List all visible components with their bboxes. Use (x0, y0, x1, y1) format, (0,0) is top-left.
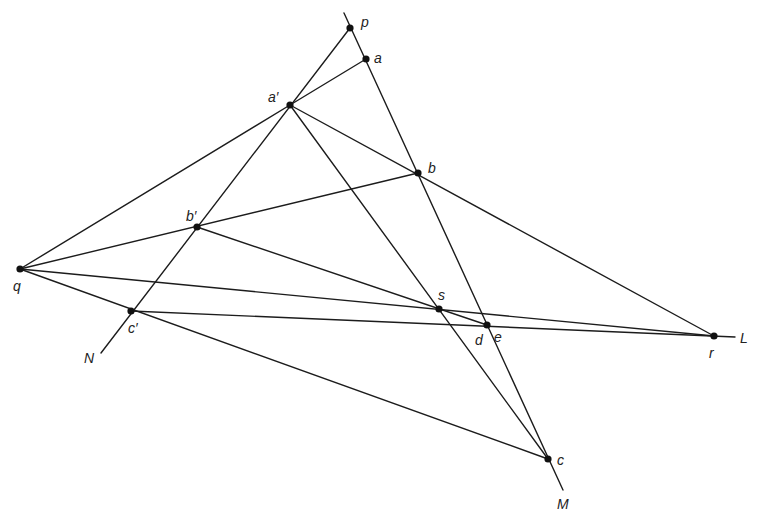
label-c: c (557, 452, 564, 468)
label-q: q (13, 278, 21, 294)
label-c-prime: c′ (128, 320, 139, 336)
label-b-prime: b′ (186, 208, 198, 224)
label-p: p (360, 14, 369, 30)
label-a: a (374, 50, 382, 66)
line-q-c (20, 269, 548, 459)
points-group (16, 24, 717, 462)
desargues-diagram: paa′bb′qc′sedrcLMN (0, 0, 758, 527)
point-c-prime (127, 307, 134, 314)
point-a (362, 55, 369, 62)
line-q-b (20, 173, 418, 269)
line-label-M: M (557, 496, 569, 512)
line-label-L: L (740, 330, 748, 346)
label-r: r (709, 345, 715, 361)
line-a-aprime (290, 59, 366, 105)
point-a-prime (286, 101, 293, 108)
labels-group: paa′bb′qc′sedrcLMN (13, 14, 748, 512)
line-N (101, 28, 350, 353)
point-r (710, 332, 717, 339)
lines-group (20, 13, 735, 490)
line-label-N: N (84, 350, 95, 366)
label-b: b (428, 160, 436, 176)
line-bprime-e (197, 227, 487, 325)
point-b-prime (193, 223, 200, 230)
label-e: e (494, 329, 502, 345)
point-b (414, 169, 421, 176)
point-q (16, 265, 23, 272)
label-s: s (438, 287, 445, 303)
label-d: d (475, 332, 484, 348)
point-s (435, 305, 442, 312)
line-aprime-c (290, 105, 548, 459)
label-a-prime: a′ (268, 89, 280, 105)
line-M (344, 13, 563, 490)
line-L (131, 311, 735, 337)
point-c (544, 455, 551, 462)
point-e (483, 321, 490, 328)
point-p (346, 24, 353, 31)
